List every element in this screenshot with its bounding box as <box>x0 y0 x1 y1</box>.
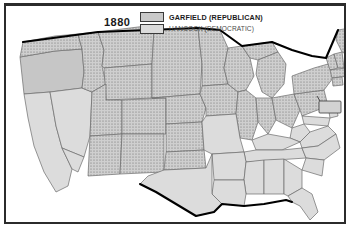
map-canvas <box>6 6 344 222</box>
territory-arizona <box>88 134 122 176</box>
legend-label-democratic: HANCOCK (DEMOCRATIC) <box>169 25 254 32</box>
state-colorado <box>122 98 166 134</box>
state-connecticut <box>332 77 343 86</box>
state-kansas <box>166 122 204 152</box>
state-alabama <box>264 159 284 194</box>
state-iowa <box>200 84 238 116</box>
map-figure: 1880 GARFIELD (REPUBLICAN) HANCOCK (DEMO… <box>0 0 349 227</box>
state-mississippi <box>244 160 264 194</box>
legend-swatch-republican <box>140 12 164 22</box>
frame-border-right <box>344 3 346 224</box>
state-massachusetts <box>330 68 344 78</box>
legend-swatch-democratic <box>140 24 164 34</box>
territory-indian <box>164 150 206 170</box>
northeast-inset-box <box>319 101 341 113</box>
election-year-label: 1880 <box>104 16 130 28</box>
us-map-svg <box>6 6 344 222</box>
territory-dakota <box>152 28 202 98</box>
state-michigan-lower <box>256 52 286 98</box>
state-oregon <box>20 49 84 94</box>
state-maryland <box>302 116 330 126</box>
territory-wyoming <box>104 64 152 100</box>
territory-new-mexico <box>120 134 164 174</box>
frame-border-bottom <box>4 222 346 224</box>
legend-label-republican: GARFIELD (REPUBLICAN) <box>169 13 263 22</box>
state-south-carolina <box>302 158 324 176</box>
state-arkansas <box>212 152 246 180</box>
map-legend: 1880 GARFIELD (REPUBLICAN) HANCOCK (DEMO… <box>104 10 284 38</box>
